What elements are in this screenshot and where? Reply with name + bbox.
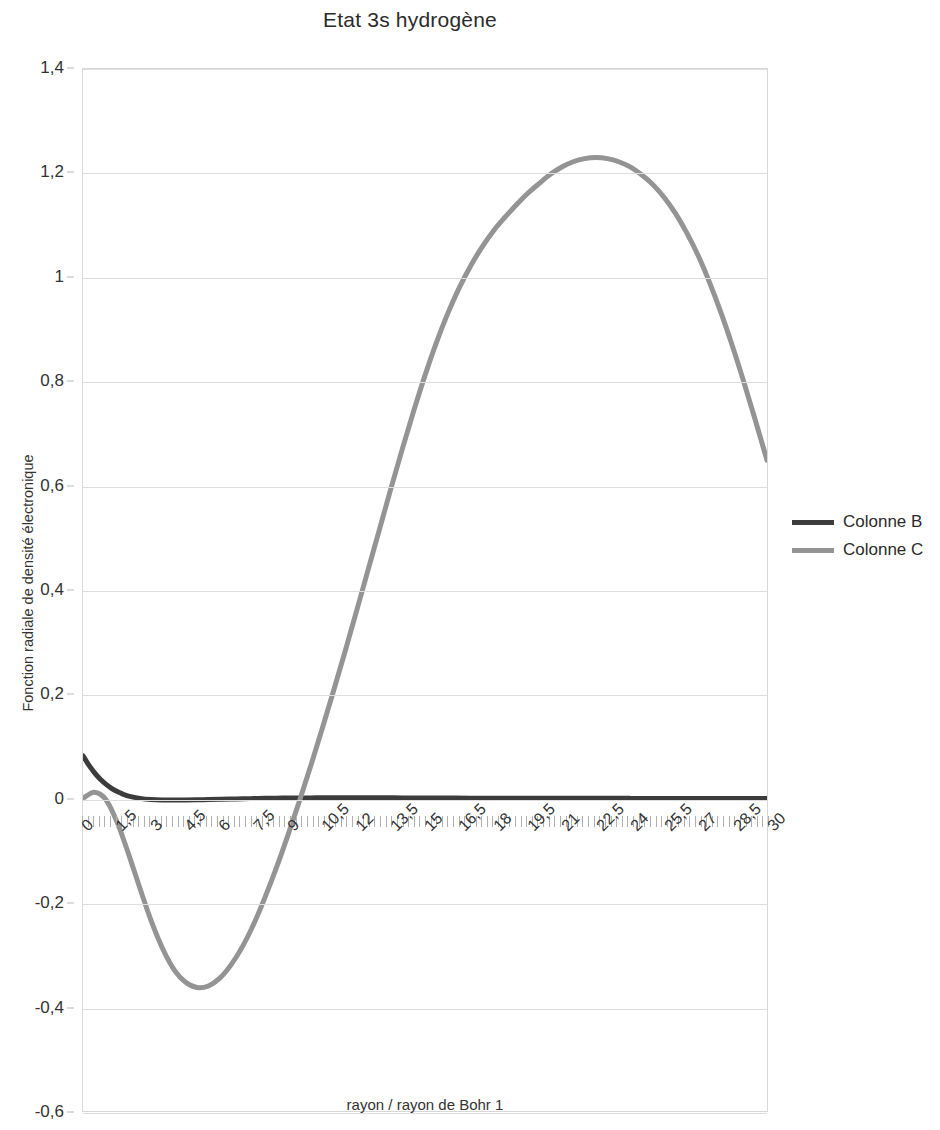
- gridline: [83, 904, 767, 905]
- gridline: [83, 278, 767, 279]
- y-axis-tick-label: 0,6: [40, 476, 64, 496]
- y-axis-tick-label: -0,6: [35, 1102, 64, 1122]
- y-axis-tick-label: 1,2: [40, 162, 64, 182]
- y-axis-tick-label: 0: [55, 789, 64, 809]
- y-axis-tick-label: -0,2: [35, 893, 64, 913]
- y-axis-tick-mark: [67, 381, 74, 382]
- y-axis-tick-label: 0,4: [40, 580, 64, 600]
- y-axis-tick-label: 1,4: [40, 58, 64, 78]
- y-axis-tick-label: -0,4: [35, 998, 64, 1018]
- y-axis-tick-mark: [67, 68, 74, 69]
- y-axis: 1,41,210,80,60,40,20-0,2-0,4-0,6: [0, 68, 74, 1112]
- chart-curves: [83, 69, 767, 1111]
- y-axis-tick-mark: [67, 798, 74, 799]
- plot-area: [82, 68, 768, 1112]
- y-axis-tick-mark: [67, 1007, 74, 1008]
- x-axis-title: rayon / rayon de Bohr 1: [82, 1096, 768, 1113]
- x-axis: 01,534,567,5910,51213,51516,51819,52122,…: [82, 822, 768, 892]
- gridline: [83, 173, 767, 174]
- y-axis-tick-label: 0,2: [40, 684, 64, 704]
- y-axis-tick-mark: [67, 903, 74, 904]
- legend-item[interactable]: Colonne B: [792, 508, 940, 536]
- gridline: [83, 1113, 767, 1114]
- y-axis-title: Fonction radiale de densité électronique: [20, 203, 36, 963]
- gridline: [83, 487, 767, 488]
- y-axis-tick-mark: [67, 485, 74, 486]
- legend-label: Colonne B: [843, 512, 922, 532]
- series-line: [83, 756, 767, 800]
- legend-line-swatch: [792, 520, 834, 525]
- legend-label: Colonne C: [843, 540, 923, 560]
- y-axis-tick-mark: [67, 276, 74, 277]
- gridline: [83, 1009, 767, 1010]
- y-axis-tick-mark: [67, 694, 74, 695]
- y-axis-tick-label: 0,8: [40, 371, 64, 391]
- y-axis-tick-mark: [67, 1112, 74, 1113]
- gridline: [83, 695, 767, 696]
- chart-title: Etat 3s hydrogène: [0, 8, 820, 32]
- y-axis-tick-label: 1: [55, 267, 64, 287]
- y-axis-tick-mark: [67, 172, 74, 173]
- legend-item[interactable]: Colonne C: [792, 536, 940, 564]
- gridline: [83, 69, 767, 70]
- gridline: [83, 382, 767, 383]
- legend-line-swatch: [792, 548, 834, 553]
- chart-container: Etat 3s hydrogène 1,41,210,80,60,40,20-0…: [0, 0, 940, 1130]
- gridline: [83, 591, 767, 592]
- chart-legend: Colonne BColonne C: [792, 508, 940, 564]
- gridline: [83, 800, 767, 801]
- y-axis-tick-mark: [67, 590, 74, 591]
